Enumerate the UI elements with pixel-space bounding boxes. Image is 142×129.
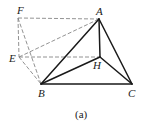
edge-FE: [18, 18, 19, 57]
edge-HC: [100, 57, 132, 84]
edge-AB: [41, 19, 99, 84]
label-A: A: [95, 5, 103, 17]
edge-FA: [18, 18, 99, 19]
label-B: B: [38, 87, 45, 99]
label-H: H: [92, 59, 102, 71]
label-F: F: [16, 4, 24, 16]
figure-caption: (a): [75, 108, 88, 121]
edge-EA: [19, 19, 99, 57]
solid-edges: [41, 19, 132, 84]
label-C: C: [128, 87, 136, 99]
dashed-edges: [18, 18, 100, 84]
edge-AH: [99, 19, 100, 57]
geometry-figure: F A E H B C (a): [0, 0, 142, 129]
edge-AC: [99, 19, 132, 84]
edge-BH: [41, 57, 100, 84]
edge-EB: [19, 57, 41, 84]
edge-FB: [18, 18, 41, 84]
label-E: E: [8, 52, 16, 64]
